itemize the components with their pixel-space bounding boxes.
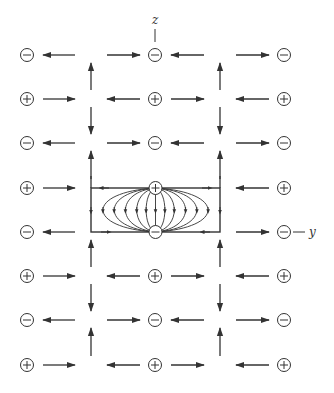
positive-charge-icon	[278, 359, 291, 372]
z-axis-label: z	[151, 13, 159, 42]
positive-source-charge-icon	[149, 182, 162, 195]
positive-charge-icon	[278, 93, 291, 106]
positive-charge-icon	[21, 93, 34, 106]
field-line	[156, 188, 186, 232]
positive-charge-icon	[21, 270, 34, 283]
negative-charge-icon	[21, 137, 34, 150]
positive-charge-icon	[21, 182, 34, 195]
negative-charge-icon	[21, 49, 34, 62]
positive-charge-icon	[149, 359, 162, 372]
image-charge-diagram: z y	[0, 0, 334, 393]
field-line	[126, 188, 156, 232]
negative-charge-icon	[149, 49, 162, 62]
y-axis-label: y	[293, 225, 316, 239]
negative-charge-icon	[278, 49, 291, 62]
negative-charge-icon	[278, 226, 291, 239]
positive-charge-icon	[149, 270, 162, 283]
positive-charge-icon	[21, 359, 34, 372]
positive-charge-icon	[278, 182, 291, 195]
negative-charge-icon	[21, 314, 34, 327]
negative-charge-icon	[149, 137, 162, 150]
positive-charge-icon	[278, 270, 291, 283]
negative-charge-icon	[278, 314, 291, 327]
negative-sink-charge-icon	[149, 226, 162, 239]
field-line	[103, 188, 156, 232]
negative-charge-icon	[278, 137, 291, 150]
field-line	[156, 188, 209, 232]
y-label: y	[308, 225, 316, 239]
positive-charge-icon	[149, 93, 162, 106]
negative-charge-icon	[149, 314, 162, 327]
central-box-dipole	[91, 182, 220, 239]
negative-charge-icon	[21, 226, 34, 239]
z-label: z	[151, 13, 159, 27]
